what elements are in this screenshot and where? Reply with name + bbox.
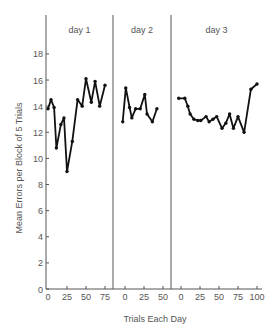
panel-day-1: day 10255075	[45, 15, 113, 302]
data-point	[207, 120, 210, 123]
data-point	[49, 98, 52, 101]
data-point	[232, 127, 235, 130]
data-point	[211, 118, 214, 121]
data-point	[71, 140, 74, 143]
data-point	[93, 80, 96, 83]
data-point	[143, 93, 146, 96]
panel-day-3: day 30255075100	[177, 25, 264, 302]
y-tick-label: 16	[33, 76, 43, 86]
data-point	[128, 106, 131, 109]
data-point	[76, 98, 79, 101]
data-point	[134, 107, 137, 110]
data-point	[59, 123, 62, 126]
y-tick-label: 10	[33, 154, 43, 164]
data-point	[224, 121, 227, 124]
x-axis-label: Trials Each Day	[123, 314, 187, 324]
data-point	[155, 107, 158, 110]
panel-label: day 3	[205, 25, 227, 35]
x-tick-label: 100	[249, 292, 264, 302]
chart: 024681012141618 day 10255075day 202550da…	[0, 0, 280, 335]
x-tick-label: 0	[178, 292, 183, 302]
data-point	[55, 146, 58, 149]
data-point	[62, 116, 65, 119]
axes: 024681012141618	[33, 15, 262, 295]
data-point	[188, 112, 191, 115]
data-point	[242, 131, 245, 134]
data-line	[48, 79, 105, 172]
data-point	[199, 119, 202, 122]
data-point	[183, 97, 186, 100]
data-point	[90, 101, 93, 104]
data-point	[192, 118, 195, 121]
y-tick-label: 0	[38, 285, 43, 295]
data-point	[52, 106, 55, 109]
data-point	[81, 104, 84, 107]
x-tick-label: 50	[81, 292, 91, 302]
y-tick-label: 2	[38, 258, 43, 268]
data-point	[215, 115, 218, 118]
data-point	[228, 112, 231, 115]
data-point	[255, 82, 258, 85]
panel-label: day 1	[68, 25, 90, 35]
x-tick-label: 25	[195, 292, 205, 302]
y-tick-label: 8	[38, 180, 43, 190]
data-point	[249, 87, 252, 90]
data-point	[103, 84, 106, 87]
data-point	[98, 104, 101, 107]
y-tick-label: 18	[33, 49, 43, 59]
data-point	[151, 120, 154, 123]
data-point	[220, 127, 223, 130]
data-point	[196, 119, 199, 122]
data-point	[236, 115, 239, 118]
chart-svg: 024681012141618 day 10255075day 202550da…	[0, 0, 280, 335]
panel-label: day 2	[131, 25, 153, 35]
y-tick-label: 6	[38, 206, 43, 216]
x-tick-label: 50	[214, 292, 224, 302]
y-tick-label: 4	[38, 232, 43, 242]
panels: day 10255075day 202550day 30255075100	[45, 15, 264, 302]
data-point	[130, 116, 133, 119]
x-tick-label: 0	[45, 292, 50, 302]
data-point	[121, 120, 124, 123]
x-tick-label: 25	[62, 292, 72, 302]
data-point	[46, 107, 49, 110]
data-line	[123, 88, 157, 122]
data-point	[124, 86, 127, 89]
data-point	[139, 107, 142, 110]
data-point	[186, 104, 189, 107]
data-point	[145, 112, 148, 115]
data-point	[84, 77, 87, 80]
data-point	[65, 170, 68, 173]
x-tick-label: 50	[158, 292, 168, 302]
x-tick-label: 0	[122, 292, 127, 302]
x-tick-label: 75	[100, 292, 110, 302]
panel-day-2: day 202550	[121, 15, 171, 302]
x-tick-label: 75	[233, 292, 243, 302]
data-point	[204, 115, 207, 118]
y-tick-label: 12	[33, 128, 43, 138]
data-line	[179, 84, 257, 132]
y-axis-label: Mean Errors per Block of 5 Trials	[14, 102, 24, 234]
y-tick-label: 14	[33, 102, 43, 112]
x-tick-label: 25	[139, 292, 149, 302]
data-point	[177, 97, 180, 100]
